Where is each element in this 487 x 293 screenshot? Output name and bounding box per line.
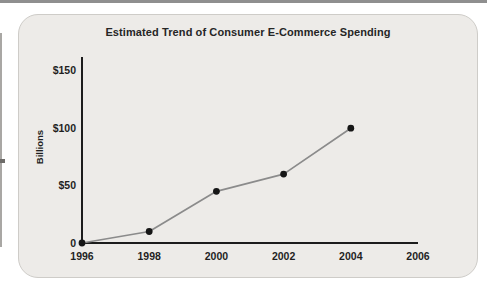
data-point bbox=[146, 228, 153, 235]
x-tick-label: 1998 bbox=[138, 250, 162, 262]
trend-line bbox=[82, 128, 351, 243]
page: Estimated Trend of Consumer E-Commerce S… bbox=[0, 0, 487, 293]
x-tick-label: 2004 bbox=[339, 250, 363, 262]
y-axis-title: Billions bbox=[34, 130, 45, 164]
x-tick-label: 1996 bbox=[70, 250, 94, 262]
x-tick-label: 2000 bbox=[205, 250, 229, 262]
data-point bbox=[79, 240, 86, 247]
data-point bbox=[280, 171, 287, 178]
y-tick-label: $100 bbox=[53, 122, 77, 134]
data-point bbox=[347, 125, 354, 132]
data-point bbox=[213, 188, 220, 195]
chart-canvas: 0$50$100$150199619982000200220042006Bill… bbox=[0, 0, 487, 293]
x-tick-label: 2002 bbox=[272, 250, 296, 262]
y-tick-label: $150 bbox=[53, 64, 77, 76]
x-tick-label: 2006 bbox=[406, 250, 430, 262]
y-tick-label: $50 bbox=[58, 179, 76, 191]
y-tick-label: 0 bbox=[70, 237, 76, 249]
